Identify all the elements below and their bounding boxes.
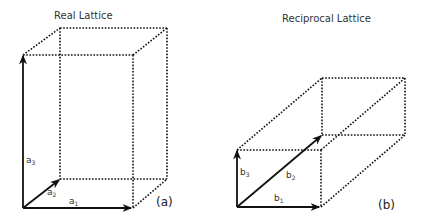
panel-a-label: (a) — [156, 195, 173, 209]
vector-a1-label: a1 — [69, 196, 79, 207]
real-lattice-panel: Real Lattice a3 a2 a1 (a) — [23, 10, 173, 209]
real-lattice-title: Real Lattice — [54, 10, 113, 21]
vector-b3-label: b3 — [240, 167, 250, 178]
real-lattice-box — [23, 28, 167, 208]
reciprocal-lattice-title: Reciprocal Lattice — [282, 13, 371, 24]
vector-b2-label: b2 — [286, 170, 296, 181]
vector-a3-label: a3 — [26, 155, 36, 166]
reciprocal-lattice-panel: Reciprocal Lattice b3 b2 b1 (b) — [237, 13, 405, 212]
vector-b1-label: b1 — [274, 193, 284, 204]
reciprocal-lattice-box — [237, 78, 405, 207]
lattice-diagram: Real Lattice a3 a2 a1 (a) Reciprocal Lat… — [0, 0, 425, 221]
panel-b-label: (b) — [378, 198, 395, 212]
vector-a2-label: a2 — [47, 187, 57, 198]
